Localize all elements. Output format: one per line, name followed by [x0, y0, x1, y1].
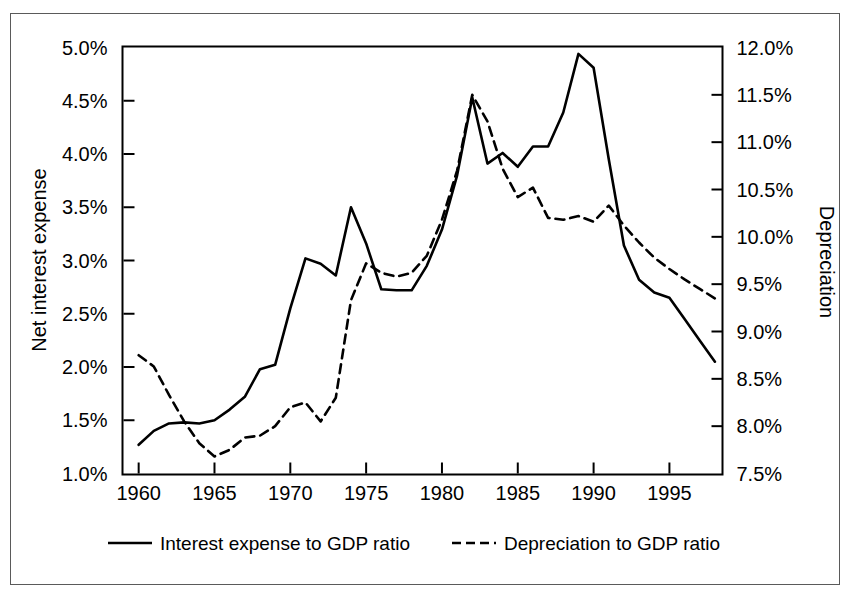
data-series-group [139, 54, 715, 457]
y2-tick-label: 8.0% [737, 415, 783, 437]
y-tick-label: 1.0% [62, 463, 108, 485]
x-tick-label: 1980 [420, 482, 465, 504]
y-axis-tick-labels: 1.0%1.5%2.0%2.5%3.0%3.5%4.0%4.5%5.0% [62, 37, 108, 485]
y-tick-label: 3.0% [62, 250, 108, 272]
y2-tick-label: 11.5% [737, 84, 792, 106]
x-axis-tick-labels: 19601965197019751980198519901995 [116, 482, 691, 504]
x-tick-label: 1985 [496, 482, 541, 504]
x-axis-ticks [139, 463, 670, 474]
y2-tick-label: 9.0% [737, 321, 783, 343]
y2-tick-label: 10.0% [737, 226, 794, 248]
x-tick-label: 1965 [192, 482, 237, 504]
y-tick-label: 3.5% [62, 196, 108, 218]
y-tick-label: 5.0% [62, 37, 108, 59]
legend-item-depreciation: Depreciation to GDP ratio [504, 533, 720, 554]
line-chart: 1.0%1.5%2.0%2.5%3.0%3.5%4.0%4.5%5.0% 7.5… [0, 0, 854, 604]
y-tick-label: 2.5% [62, 303, 108, 325]
y2-tick-label: 8.5% [737, 368, 783, 390]
y-tick-label: 2.0% [62, 356, 108, 378]
y2-tick-label: 11.0% [737, 131, 792, 153]
y-tick-label: 1.5% [62, 409, 108, 431]
chart-container: 1.0%1.5%2.0%2.5%3.0%3.5%4.0%4.5%5.0% 7.5… [0, 0, 854, 604]
y2-tick-label: 10.5% [737, 179, 794, 201]
y-axis-title: Net interest expense [28, 168, 50, 351]
series-line-interest-expense [139, 54, 715, 445]
y2-tick-label: 9.5% [737, 273, 783, 295]
y-tick-label: 4.5% [62, 90, 108, 112]
y2-tick-label: 7.5% [737, 463, 783, 485]
x-tick-label: 1975 [344, 482, 389, 504]
y2-tick-label: 12.0% [737, 37, 794, 59]
y-axis-ticks [124, 101, 135, 421]
series-line-depreciation [139, 95, 715, 457]
x-tick-label: 1970 [268, 482, 313, 504]
x-tick-label: 1990 [571, 482, 616, 504]
y2-axis-ticks [712, 95, 723, 426]
chart-legend: Interest expense to GDP ratio Depreciati… [108, 533, 720, 554]
x-tick-label: 1995 [647, 482, 692, 504]
y-tick-label: 4.0% [62, 143, 108, 165]
x-tick-label: 1960 [116, 482, 161, 504]
y2-axis-title: Depreciation [816, 206, 838, 318]
legend-item-interest-expense: Interest expense to GDP ratio [160, 533, 410, 554]
y2-axis-tick-labels: 7.5%8.0%8.5%9.0%9.5%10.0%10.5%11.0%11.5%… [737, 37, 794, 485]
